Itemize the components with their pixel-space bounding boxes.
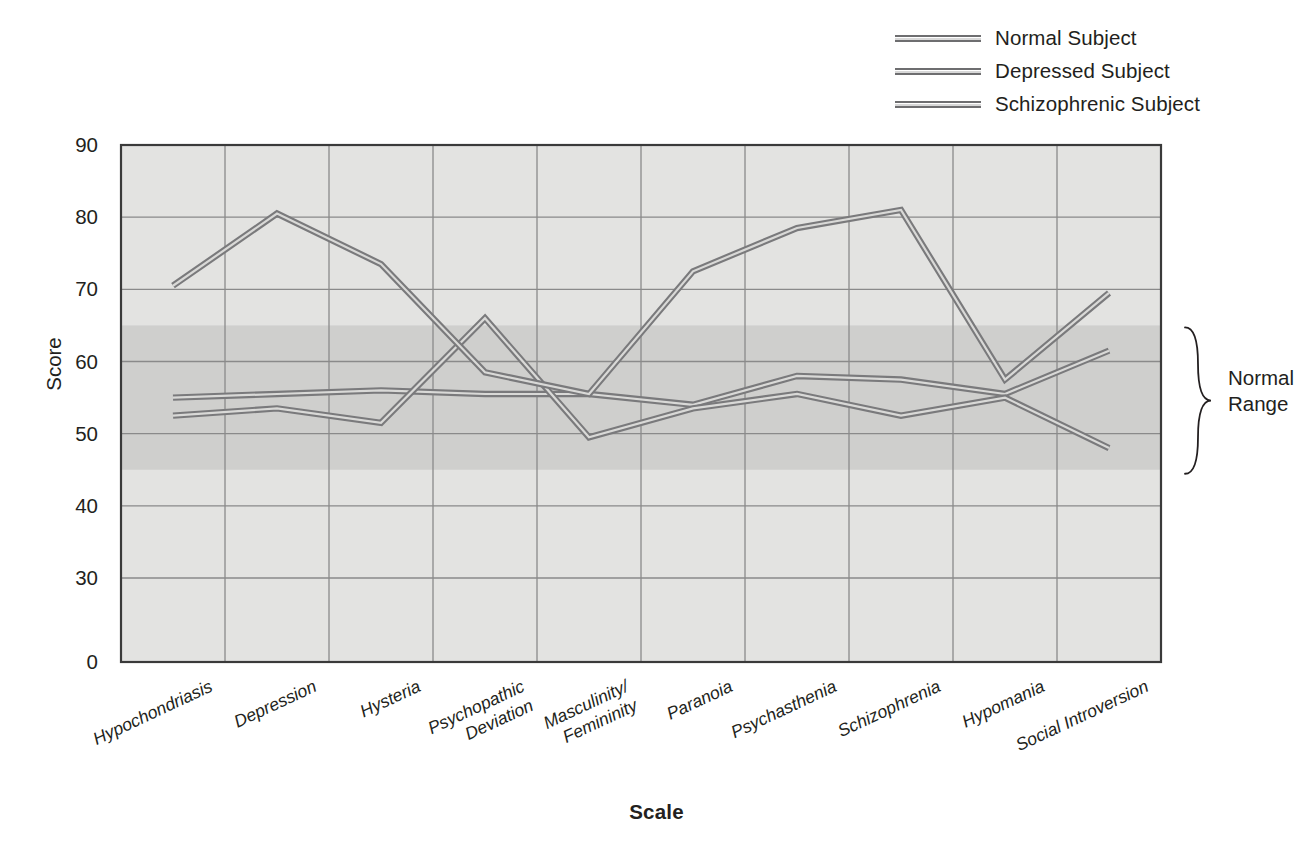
y-axis-tick-label: 40 bbox=[28, 494, 98, 518]
normal-range-label: Normal Range bbox=[1228, 365, 1294, 416]
y-axis-tick-label: 90 bbox=[28, 133, 98, 157]
y-axis-tick-label: 60 bbox=[28, 350, 98, 374]
y-axis-tick-label: 70 bbox=[28, 277, 98, 301]
plot-area bbox=[0, 0, 1313, 855]
y-axis-tick-label: 0 bbox=[28, 650, 98, 674]
y-axis-tick-label: 30 bbox=[28, 566, 98, 590]
chart-canvas: Normal Subject Depressed Subject Schizop… bbox=[0, 0, 1313, 855]
y-axis-tick-label: 80 bbox=[28, 205, 98, 229]
y-axis-tick-label: 50 bbox=[28, 422, 98, 446]
x-axis-title: Scale bbox=[0, 800, 1313, 824]
